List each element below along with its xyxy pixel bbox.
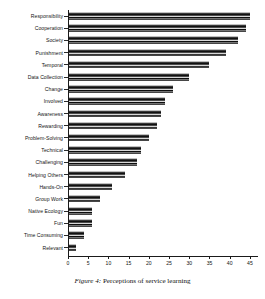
bar <box>68 232 84 239</box>
bar-row: Fun <box>0 217 265 229</box>
x-axis-tick-label: 10 <box>106 260 112 266</box>
bar-row: Punishment <box>0 47 265 59</box>
figure-caption-text: Perceptions of service learning <box>103 277 191 285</box>
bar <box>68 37 238 44</box>
bar-track <box>68 205 265 217</box>
bar <box>68 86 173 93</box>
category-label: Problem-Solving <box>0 135 63 141</box>
bar <box>68 208 92 215</box>
bar <box>68 25 246 32</box>
x-axis-ticks: 051015202530354045 <box>0 256 265 270</box>
bar <box>68 13 250 20</box>
x-axis-tick-label: 15 <box>126 260 132 266</box>
bar <box>68 159 137 166</box>
bar-row: Native Ecology <box>0 205 265 217</box>
bar-track <box>68 22 265 34</box>
x-axis-tick-label: 40 <box>227 260 233 266</box>
bar-row: Awareness <box>0 108 265 120</box>
category-label: Rewarding <box>0 123 63 129</box>
bar-rows: ResponsibilityCooperationSocietyPunishme… <box>0 10 265 254</box>
x-axis-tick <box>129 256 130 259</box>
category-label: Fun <box>0 220 63 226</box>
bar-track <box>68 144 265 156</box>
bar-row: Challenging <box>0 156 265 168</box>
bar-row: Helping Others <box>0 168 265 180</box>
x-axis-tick <box>169 256 170 259</box>
bar-track <box>68 242 265 254</box>
bar-row: Responsibility <box>0 10 265 22</box>
category-label: Involved <box>0 98 63 104</box>
category-label: Group Work <box>0 196 63 202</box>
bar-row: Time Consuming <box>0 229 265 241</box>
category-label: Awareness <box>0 111 63 117</box>
category-label: Data Collection <box>0 74 63 80</box>
bar <box>68 98 165 105</box>
category-label: Helping Others <box>0 172 63 178</box>
category-label: Native Ecology <box>0 208 63 214</box>
x-axis-tick-label: 30 <box>186 260 192 266</box>
bar <box>68 183 112 190</box>
bar <box>68 110 161 117</box>
bar-row: Data Collection <box>0 71 265 83</box>
figure-caption-number: Figure 4: <box>74 277 101 285</box>
bar-row: Rewarding <box>0 120 265 132</box>
bar-track <box>68 168 265 180</box>
bar <box>68 74 189 81</box>
bar-track <box>68 83 265 95</box>
bar-row: Hands-On <box>0 181 265 193</box>
x-axis-tick <box>68 256 69 259</box>
bar-row: Relevant <box>0 242 265 254</box>
x-axis-tick <box>230 256 231 259</box>
figure-container: ResponsibilityCooperationSocietyPunishme… <box>0 0 265 299</box>
x-axis-tick <box>88 256 89 259</box>
bar-row: Cooperation <box>0 22 265 34</box>
category-label: Responsibility <box>0 13 63 19</box>
category-label: Relevant <box>0 245 63 251</box>
bar-track <box>68 34 265 46</box>
bar <box>68 147 141 154</box>
bar <box>68 135 149 142</box>
x-axis-tick-label: 0 <box>67 260 70 266</box>
x-axis-tick-label: 20 <box>146 260 152 266</box>
bar-track <box>68 132 265 144</box>
bar <box>68 171 125 178</box>
bar-track <box>68 108 265 120</box>
category-label: Cooperation <box>0 25 63 31</box>
bar-row: Change <box>0 83 265 95</box>
bar-track <box>68 217 265 229</box>
bar <box>68 196 100 203</box>
x-axis-tick <box>250 256 251 259</box>
x-axis-tick <box>189 256 190 259</box>
x-axis-tick-label: 5 <box>87 260 90 266</box>
category-label: Society <box>0 37 63 43</box>
bar-row: Temporal <box>0 59 265 71</box>
bar-track <box>68 193 265 205</box>
bar-row: Society <box>0 34 265 46</box>
bar-row: Problem-Solving <box>0 132 265 144</box>
category-label: Punishment <box>0 50 63 56</box>
bar-track <box>68 95 265 107</box>
y-axis-line <box>68 10 69 256</box>
bar-track <box>68 10 265 22</box>
bar-track <box>68 156 265 168</box>
x-axis-tick <box>149 256 150 259</box>
bar <box>68 49 226 56</box>
bar-row: Group Work <box>0 193 265 205</box>
x-axis-tick <box>209 256 210 259</box>
bar <box>68 220 92 227</box>
bar <box>68 62 209 69</box>
category-label: Change <box>0 86 63 92</box>
x-axis-tick <box>108 256 109 259</box>
category-label: Hands-On <box>0 184 63 190</box>
x-axis-tick-label: 45 <box>247 260 253 266</box>
category-label: Challenging <box>0 159 63 165</box>
bar-track <box>68 120 265 132</box>
bar-track <box>68 229 265 241</box>
bar-track <box>68 59 265 71</box>
category-label: Technical <box>0 147 63 153</box>
category-label: Temporal <box>0 62 63 68</box>
figure-caption: Figure 4: Perceptions of service learnin… <box>0 277 265 286</box>
bar-track <box>68 181 265 193</box>
bar-row: Involved <box>0 95 265 107</box>
bar-track <box>68 47 265 59</box>
